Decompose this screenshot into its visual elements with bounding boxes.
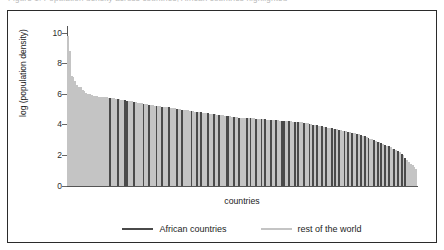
- y-tick-label-4: 4: [32, 120, 62, 129]
- plot-area: [67, 27, 417, 186]
- y-tick-label-10: 10: [32, 29, 62, 38]
- chart-legend: African countries rest of the world: [67, 222, 417, 236]
- legend-label-rest-of-world: rest of the world: [298, 224, 362, 234]
- bar: [415, 169, 417, 186]
- y-tick-10: [62, 33, 67, 34]
- figure-caption-clipped: Figure 1: Population density across coun…: [8, 0, 428, 3]
- y-tick-0: [62, 186, 67, 187]
- y-tick-8: [62, 63, 67, 64]
- legend-swatch-dark-icon: [122, 228, 153, 230]
- y-tick-label-8: 8: [32, 59, 62, 68]
- y-tick-4: [62, 124, 67, 125]
- y-tick-label-2: 2: [32, 151, 62, 160]
- y-axis-ticks: 0246810: [25, 0, 62, 250]
- legend-item-rest-of-world: rest of the world: [261, 224, 362, 234]
- legend-item-african-countries: African countries: [122, 224, 226, 234]
- y-axis-label: log (population density): [18, 3, 28, 143]
- legend-swatch-light-icon: [261, 228, 292, 230]
- y-tick-label-6: 6: [32, 90, 62, 99]
- y-tick-6: [62, 94, 67, 95]
- legend-label-african-countries: African countries: [159, 224, 226, 234]
- y-tick-2: [62, 155, 67, 156]
- bar-series-container: [67, 27, 417, 186]
- y-tick-label-0: 0: [32, 182, 62, 191]
- x-axis-label: countries: [67, 196, 417, 206]
